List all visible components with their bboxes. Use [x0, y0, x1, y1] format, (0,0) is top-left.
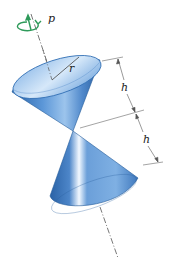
rotation-arrow-icon	[17, 15, 41, 31]
dimension-extension-bottom	[143, 162, 163, 165]
height-label-lower: h	[143, 133, 150, 146]
height-label-upper: h	[121, 81, 128, 94]
rotation-axis-lower	[100, 207, 118, 258]
double-cone-diagram: p r h h	[0, 0, 170, 265]
dimension-extension-middle	[80, 110, 144, 128]
dimension-extension-top	[102, 57, 123, 61]
radius-label: r	[69, 62, 75, 75]
rotation-label: p	[48, 12, 55, 25]
